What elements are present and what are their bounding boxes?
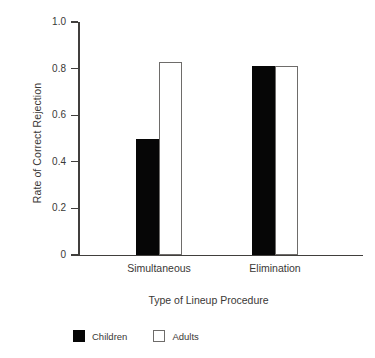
y-axis-tick [71, 68, 78, 69]
y-axis-tick [71, 161, 78, 162]
y-axis-tick [71, 21, 78, 22]
x-axis-label-elimination: Elimination [249, 262, 300, 274]
y-axis-tick [71, 208, 78, 209]
legend-label-adults: Adults [172, 331, 198, 342]
y-axis-tick-label: 0.2 [34, 202, 66, 213]
bar-simultaneous-children [136, 139, 159, 256]
x-axis-label-simultaneous: Simultaneous [127, 262, 191, 274]
y-axis-tick-label: 0.4 [34, 156, 66, 167]
x-axis-title: Type of Lineup Procedure [0, 294, 375, 306]
plot-area [78, 22, 363, 255]
y-axis-tick [71, 254, 78, 255]
x-axis-title-text: Type of Lineup Procedure [148, 294, 268, 306]
legend-item-children: Children [73, 330, 127, 342]
y-axis-tick-label: 0.6 [34, 109, 66, 120]
legend-swatch-children [73, 330, 85, 342]
bar-elimination-adults [275, 66, 298, 255]
y-axis-tick-label: 0.8 [34, 63, 66, 74]
y-axis-tick-label: 1.0 [34, 16, 66, 27]
legend-swatch-adults [153, 330, 165, 342]
y-axis-tick-label: 0 [34, 249, 66, 260]
chart-legend: ChildrenAdults [73, 330, 199, 342]
bar-simultaneous-adults [159, 62, 182, 255]
legend-item-adults: Adults [153, 330, 198, 342]
bar-chart-figure: Rate of Correct Rejection 00.20.40.60.81… [0, 0, 375, 358]
legend-label-children: Children [92, 331, 127, 342]
y-axis-tick [71, 115, 78, 116]
bar-elimination-children [252, 66, 275, 255]
